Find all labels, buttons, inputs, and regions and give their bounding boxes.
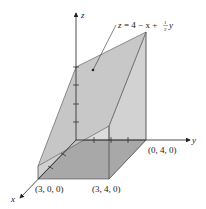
- point-label-0-4-0: (0, 4, 0): [148, 145, 177, 155]
- equation-leader-dot: [92, 69, 95, 72]
- svg-text:2: 2: [164, 27, 167, 32]
- solid-under-plane-diagram: z y x (0, 4, 0) (3, 0, 0) (3, 4, 0) z = …: [0, 0, 206, 209]
- point-label-3-0-0: (3, 0, 0): [35, 184, 64, 194]
- equation-label: z = 4 − x + 1 2 y: [117, 20, 173, 32]
- svg-text:y: y: [168, 20, 173, 30]
- y-axis-label: y: [191, 135, 196, 145]
- x-axis-label: x: [10, 194, 15, 204]
- z-axis-label: z: [80, 10, 85, 20]
- svg-text:z: z: [117, 20, 122, 30]
- point-label-3-4-0: (3, 4, 0): [92, 184, 121, 194]
- svg-text:1: 1: [164, 20, 167, 25]
- diagram-canvas: z y x (0, 4, 0) (3, 0, 0) (3, 4, 0) z = …: [0, 0, 206, 209]
- svg-text:= 4 − x +: = 4 − x +: [124, 20, 157, 30]
